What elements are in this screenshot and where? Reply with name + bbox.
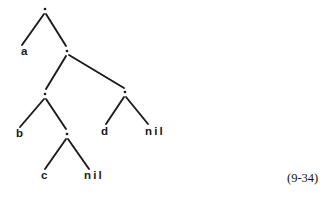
figure-container: abdnilcnil (9-34) bbox=[0, 0, 332, 202]
tree-edge-n4-to-lc bbox=[45, 139, 66, 169]
tree-edge-n3-to-ld bbox=[106, 97, 124, 124]
cons-dot-n1 bbox=[66, 50, 69, 53]
tree-edge-n4-to-lnil2 bbox=[68, 139, 89, 169]
tree-edge-n0-to-la bbox=[22, 14, 44, 45]
tree-edges bbox=[20, 14, 148, 169]
leaf-label-lc: c bbox=[41, 170, 47, 182]
tree-edge-n2-to-lb bbox=[20, 99, 44, 127]
leaf-label-lnil2: nil bbox=[84, 170, 104, 182]
tree-graphic bbox=[0, 0, 332, 202]
cons-dot-n4 bbox=[66, 133, 69, 136]
tree-edge-n1-to-n2 bbox=[46, 56, 66, 89]
tree-edge-n0-to-n1 bbox=[46, 14, 66, 46]
cons-dot-n2 bbox=[44, 93, 47, 96]
tree-edge-n1-to-n3 bbox=[69, 55, 124, 88]
cons-dot-n3 bbox=[124, 91, 127, 94]
figure-number-caption: (9-34) bbox=[287, 172, 318, 185]
tree-edge-n3-to-lnil1 bbox=[126, 97, 148, 124]
cons-dot-n0 bbox=[44, 8, 47, 11]
leaf-label-la: a bbox=[21, 46, 27, 58]
leaf-label-ld: d bbox=[101, 126, 108, 138]
tree-edge-n2-to-n4 bbox=[46, 99, 66, 129]
leaf-label-lnil1: nil bbox=[145, 126, 165, 138]
leaf-label-lb: b bbox=[16, 128, 23, 140]
